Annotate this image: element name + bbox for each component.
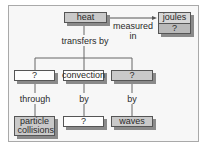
node-joules: joules ? (158, 12, 191, 34)
node-convection: convection (63, 70, 104, 81)
node-waves: waves (111, 116, 153, 127)
node-branch-left: ? (14, 70, 55, 81)
node-branch-right: ? (111, 70, 153, 81)
node-leaf-mid: ? (63, 116, 104, 127)
node-particle-collisions: particle collisions (14, 116, 55, 136)
link-through: through (15, 94, 55, 104)
node-joules-top: joules (159, 13, 190, 23)
node-joules-bottom: ? (159, 23, 190, 34)
link-by-mid: by (64, 94, 104, 104)
node-heat: heat (64, 12, 107, 23)
link-measured-in: measured in (112, 21, 154, 41)
link-by-right: by (112, 94, 152, 104)
node-heat-label: heat (77, 13, 95, 22)
link-transfers-by: transfers by (60, 36, 110, 46)
